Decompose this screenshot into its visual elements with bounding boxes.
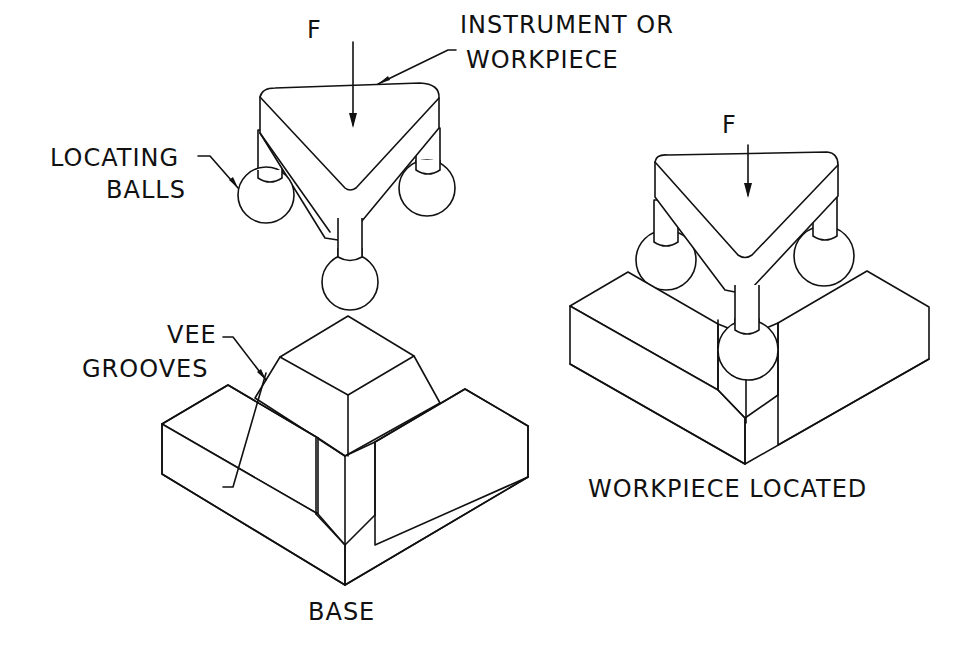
assembled-coupling: [570, 145, 929, 464]
base-label: BASE: [308, 598, 375, 626]
force-label-right: F: [722, 111, 737, 139]
instrument-label-line1: INSTRUMENT OR: [460, 11, 674, 39]
grooves-label-line2: GROOVES: [82, 355, 208, 383]
workpiece-located-caption: WORKPIECE LOCATED: [588, 475, 867, 503]
balls-leader: [198, 156, 238, 188]
instrument-workpiece: [198, 42, 456, 310]
locating-ball-front: [322, 254, 378, 310]
force-label-left: F: [307, 16, 322, 44]
base-block: [162, 316, 528, 585]
kinematic-coupling-diagram: F INSTRUMENT OR WORKPIECE LOCATING BALLS…: [0, 0, 973, 654]
balls-label-line1: LOCATING: [50, 144, 179, 172]
balls-label-line2: BALLS: [106, 176, 186, 204]
grooves-label-line1: VEE: [167, 321, 217, 349]
instrument-label-line2: WORKPIECE: [466, 46, 619, 74]
triangle-block: [260, 83, 439, 240]
instrument-leader: [378, 50, 456, 84]
